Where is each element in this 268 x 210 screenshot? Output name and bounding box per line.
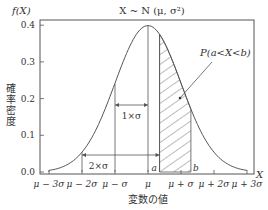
x-tick-label: μ + 3σ bbox=[232, 179, 264, 189]
arrow-head-left bbox=[115, 103, 119, 107]
sigma-span-label: 2×σ bbox=[89, 161, 108, 171]
y-axis-label-char: 確 bbox=[6, 82, 16, 94]
y-tick-label: 0.4 bbox=[21, 20, 36, 30]
y-tick-label: 0.2 bbox=[21, 94, 35, 104]
y-tick-label: 0.3 bbox=[21, 57, 36, 67]
a-label: a bbox=[152, 163, 157, 173]
chart-title: X ~ N (μ, σ²) bbox=[119, 5, 184, 16]
x-axis-end-label: X bbox=[255, 169, 264, 180]
probability-leader-dot bbox=[179, 97, 182, 100]
x-axis-label: 変数の値 bbox=[128, 193, 168, 205]
x-tick-label: μ − 2σ bbox=[67, 179, 99, 189]
sigma-span-label: 1×σ bbox=[122, 111, 141, 121]
normal-distribution-diagram: 0.00.10.20.30.4μ − 3σμ − 2σμ − σμμ + σμ … bbox=[0, 0, 268, 210]
y-axis-label: 確率密度 bbox=[6, 82, 16, 127]
y-tick-label: 0.1 bbox=[21, 130, 35, 140]
arrow-head-right bbox=[144, 103, 148, 107]
plot-frame bbox=[40, 20, 254, 174]
y-tick-label: 0.0 bbox=[21, 167, 36, 177]
x-tick-label: μ − σ bbox=[102, 179, 128, 189]
shaded-probability-region bbox=[160, 34, 191, 172]
y-axis-label-char: 密 bbox=[6, 104, 16, 116]
y-axis-top-label: f(X) bbox=[11, 5, 31, 16]
arrow-head-right bbox=[156, 153, 160, 157]
y-axis-label-char: 度 bbox=[6, 115, 16, 127]
x-tick-label: μ + σ bbox=[168, 179, 194, 189]
y-axis-label-char: 率 bbox=[6, 93, 16, 105]
x-tick-label: μ bbox=[145, 179, 151, 189]
x-tick-label: μ − 3σ bbox=[34, 179, 66, 189]
x-tick-label: μ + 2σ bbox=[199, 179, 231, 189]
probability-leader-line bbox=[180, 62, 212, 98]
arrow-head-left bbox=[82, 153, 86, 157]
b-label: b bbox=[193, 163, 199, 173]
probability-label: P(a<X<b) bbox=[199, 47, 251, 58]
